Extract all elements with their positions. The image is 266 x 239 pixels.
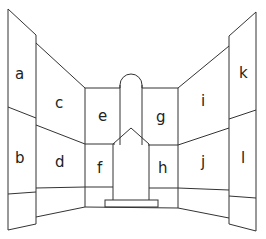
left-inner-wall [36,43,85,217]
label-c: c [55,94,63,112]
label-e: e [98,107,107,125]
label-d: d [55,153,65,171]
label-i: i [201,92,205,110]
label-k: k [239,64,248,82]
label-g: g [156,108,166,126]
label-a: a [15,65,24,83]
arch [120,74,142,88]
label-b: b [15,149,25,167]
label-l: l [241,149,245,167]
left-outer-wall [8,9,36,230]
panel-labels: a b c d e f g h i j k l [15,64,248,177]
right-outer-wall [229,12,256,231]
niche [113,128,149,200]
label-f: f [97,159,103,177]
room-diagram: a b c d e f g h i j k l [0,0,266,239]
label-h: h [158,159,168,177]
center-back-wall [85,74,178,208]
right-inner-wall [178,46,229,218]
label-j: j [200,153,205,171]
plinth [105,200,158,207]
